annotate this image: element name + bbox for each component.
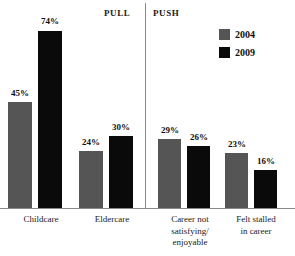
category-label-childcare: Childcare [8,214,74,226]
bar-value-stalled-2009: 16% [250,156,282,166]
bar-value-eldercare-2004: 24% [75,137,107,147]
axis-baseline [0,208,295,209]
legend-label-2004: 2004 [235,29,255,40]
bar-chart: PULL PUSH 45% 74% 24% 30% 29% 26% 23% 16… [0,0,295,256]
legend-label-2009: 2009 [235,47,255,58]
category-label-felt-stalled: Felt stalled in career [222,214,290,237]
bar-value-eldercare-2009: 30% [105,122,137,132]
bar-value-childcare-2009: 74% [34,16,66,26]
bar-value-career-2004: 29% [154,125,186,135]
legend-swatch-2004-icon [219,29,230,40]
bar-childcare-2004 [8,102,32,208]
legend: 2004 2009 [219,27,255,63]
category-label-eldercare: Eldercare [79,214,145,226]
legend-item-2004: 2004 [219,27,255,42]
bar-career-2004 [158,139,181,208]
category-label-career-not-satisfying: Career not satisfying/ enjoyable [155,214,225,249]
bar-eldercare-2004 [79,151,103,208]
legend-swatch-2009-icon [219,47,230,58]
bar-stalled-2009 [254,170,277,208]
bar-stalled-2004 [225,153,248,208]
bar-value-childcare-2004: 45% [4,88,36,98]
bar-value-stalled-2004: 23% [221,139,253,149]
bar-childcare-2009 [38,31,62,208]
bar-career-2009 [187,146,210,208]
bar-eldercare-2009 [109,136,133,208]
legend-item-2009: 2009 [219,45,255,60]
bar-value-career-2009: 26% [183,132,215,142]
